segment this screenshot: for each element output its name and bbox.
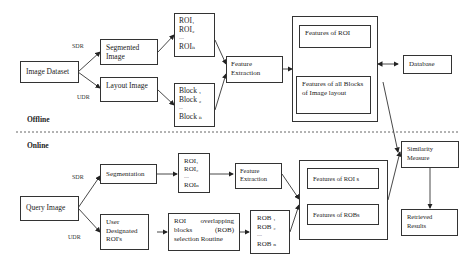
block-item: Block ₂ — [179, 96, 210, 105]
similarity-measure-box: Similarity Measure — [401, 141, 459, 168]
segmentation-box: Segmentation — [100, 164, 157, 184]
retrieved-results-box: Retrieved Results — [401, 209, 458, 236]
roi-list-box-online: ROI₁ ROI₂ .... ROIₙ — [178, 153, 210, 193]
block-item: Block ₙ — [179, 113, 210, 122]
roi-item: ROIₙ — [184, 181, 204, 189]
layout-image-box: Layout Image — [100, 77, 158, 102]
feature-extraction-box-online: Feature Extraction — [235, 163, 282, 189]
features-of-blocks-box: Features of all Blocks of Image layout — [296, 76, 371, 114]
roi-item: ROI₂ — [179, 26, 210, 35]
feature-extraction-box-offline: Feature Extraction — [226, 56, 283, 83]
rob-item: ROB ₁ — [257, 214, 283, 223]
roi-list-box-offline: ROI₁ ROI₂ .... ROIₙ — [174, 13, 215, 57]
features-of-roi-box: Features of ROI — [299, 25, 371, 48]
sdr-label-offline: SDR — [72, 43, 84, 49]
roi-item: ROI₁ — [184, 157, 204, 165]
features-of-robs-box: Features of ROBs — [307, 204, 379, 225]
udr-label-offline: UDR — [77, 94, 90, 100]
offline-section-label: Offline — [27, 115, 50, 124]
sdr-label-online: SDR — [72, 174, 84, 180]
features-container-offline: Features of ROI Features of all Blocks o… — [292, 16, 378, 122]
roi-item: .... — [184, 173, 204, 181]
features-container-online: Features of ROI s Features of ROBs — [299, 160, 388, 240]
roi-item: ROIₙ — [179, 43, 210, 52]
block-list-box: Block ₁ Block ₂ ... Block ₙ — [174, 83, 215, 127]
rob-selection-routine-box: ROI overlapping blocks (ROB) selection R… — [168, 213, 240, 251]
rob-list-box: ROB ₁ ROB ₂ .... ROB ₙ — [250, 210, 290, 254]
image-dataset-box: Image Dataset — [20, 61, 79, 83]
online-section-label: Online — [27, 141, 49, 150]
query-image-box: Query Image — [20, 196, 79, 221]
database-box: Database — [403, 55, 452, 74]
rob-item: .... — [257, 231, 283, 240]
rob-item: ROB ₙ — [257, 240, 283, 249]
segmented-image-box: Segmented Image — [100, 39, 158, 65]
roi-item: ROI₂ — [184, 165, 204, 173]
user-designated-roi-box: User Designated ROI's — [100, 214, 149, 250]
udr-label-online: UDR — [68, 234, 81, 240]
rob-item: ROB ₂ — [257, 223, 283, 232]
features-of-rois-box: Features of ROI s — [307, 168, 379, 189]
